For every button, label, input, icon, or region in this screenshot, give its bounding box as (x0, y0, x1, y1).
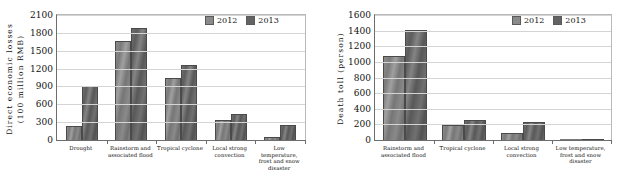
plot-area-death-toll: 02004006008001000120014001600 (374, 14, 612, 141)
bar-2012 (383, 56, 405, 140)
y-axis-title-death-toll: Death toll (person) (332, 6, 348, 151)
x-axis-label: Local strong convection (205, 145, 255, 158)
y-axis-title-line1: Death toll (person) (336, 32, 345, 125)
x-axis-tick (305, 140, 306, 144)
bar-2012 (115, 41, 131, 140)
legend-swatch-icon (246, 16, 255, 25)
legend-economic-losses: 20122013 (205, 16, 279, 25)
legend-death-toll: 20122013 (512, 16, 586, 25)
chart-panel-death-toll: Death toll (person) 02004006008001000120… (312, 0, 624, 177)
gridline (375, 46, 611, 47)
gridline (375, 78, 611, 79)
x-axis-tick (206, 140, 207, 144)
y-axis-tick-label: 1600 (348, 10, 375, 20)
gridline (57, 86, 305, 87)
y-axis-tick-label: 1800 (30, 28, 57, 38)
x-axis-label: Low temperature, frost and snow disaster (254, 145, 304, 171)
gridline (57, 69, 305, 70)
x-axis-label: Local strong convection (492, 145, 551, 158)
x-axis-label: Rainstorm and associated flood (374, 145, 433, 158)
x-axis-tick (493, 140, 494, 144)
y-axis-tick-label: 400 (354, 104, 375, 114)
gridline (57, 51, 305, 52)
y-axis-tick-label: 0 (365, 135, 375, 145)
y-axis-title-line2: (100 million RMB) (15, 23, 26, 135)
legend-swatch-icon (205, 16, 214, 25)
x-axis-tick (611, 140, 612, 144)
legend-label: 2012 (217, 16, 237, 25)
gridline (57, 104, 305, 105)
x-axis-label: Low temperature, frost and snow disaster (551, 145, 610, 165)
y-axis-tick-label: 600 (36, 99, 57, 109)
gridline (375, 93, 611, 94)
gridline (57, 33, 305, 34)
y-axis-tick-label: 1200 (30, 64, 57, 74)
legend-label: 2012 (524, 16, 544, 25)
chart-panel-economic-losses: Direct economic losses (100 million RMB)… (0, 0, 312, 177)
y-axis-tick-label: 600 (354, 88, 375, 98)
x-axis-label: Tropical cyclone (155, 145, 205, 152)
legend-label: 2013 (258, 16, 278, 25)
y-axis-tick-label: 1200 (348, 41, 375, 51)
bar-2012 (560, 139, 582, 140)
legend-label: 2013 (565, 16, 585, 25)
gridline (375, 124, 611, 125)
gridline (375, 62, 611, 63)
y-axis-tick-label: 1500 (30, 46, 57, 56)
plot-area-economic-losses: 03006009001200150018002100 (56, 14, 306, 141)
x-axis-tick (434, 140, 435, 144)
x-axis-tick (156, 140, 157, 144)
bar-2013 (280, 125, 296, 140)
legend-item-2012[interactable]: 2012 (512, 16, 544, 25)
x-axis-tick (107, 140, 108, 144)
legend-item-2012[interactable]: 2012 (205, 16, 237, 25)
legend-item-2013[interactable]: 2013 (553, 16, 585, 25)
x-axis-tick (255, 140, 256, 144)
bar-2013 (181, 65, 197, 140)
y-axis-title-line1: Direct economic losses (5, 23, 14, 135)
legend-swatch-icon (512, 16, 521, 25)
y-axis-tick-label: 0 (47, 135, 57, 145)
bar-2012 (215, 120, 231, 140)
gridline (375, 109, 611, 110)
gridline (57, 122, 305, 123)
bar-2013 (582, 139, 604, 140)
gridline (375, 31, 611, 32)
legend-swatch-icon (553, 16, 562, 25)
bar-2013 (231, 114, 247, 140)
y-axis-tick-label: 1000 (348, 57, 375, 67)
y-axis-tick-label: 200 (354, 119, 375, 129)
bar-2013 (82, 86, 98, 140)
x-axis-tick (552, 140, 553, 144)
y-axis-tick-label: 800 (354, 73, 375, 83)
bar-2012 (501, 133, 523, 140)
bar-2012 (442, 125, 464, 140)
y-axis-title-economic-losses: Direct economic losses (100 million RMB) (2, 6, 28, 151)
two-panel-bar-chart-figure: Direct economic losses (100 million RMB)… (0, 0, 624, 177)
x-axis-label: Tropical cyclone (433, 145, 492, 152)
bar-2012 (264, 137, 280, 140)
x-axis-label: Rainstorm and associated flood (106, 145, 156, 158)
y-axis-tick-label: 900 (36, 81, 57, 91)
legend-item-2013[interactable]: 2013 (246, 16, 278, 25)
y-axis-tick-label: 2100 (30, 10, 57, 20)
y-axis-tick-label: 300 (36, 117, 57, 127)
bar-2012 (66, 126, 82, 140)
x-axis-label: Drought (56, 145, 106, 152)
y-axis-tick-label: 1400 (348, 26, 375, 36)
